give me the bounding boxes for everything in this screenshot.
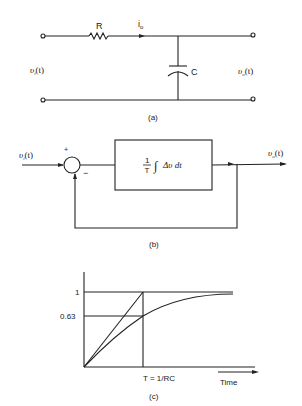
minus-sign: − bbox=[83, 168, 88, 178]
caption-b: (b) bbox=[149, 240, 159, 249]
input-voltage-label: υi(t) bbox=[30, 65, 44, 76]
response-curve bbox=[84, 294, 233, 367]
integral-sign: ∫ bbox=[153, 158, 159, 174]
feedback-arrow-icon bbox=[73, 173, 77, 179]
block-numerator: 1 bbox=[145, 156, 150, 165]
terminal-out-top bbox=[251, 33, 255, 37]
resistor-label: R bbox=[96, 21, 103, 31]
terminal-in-bottom bbox=[41, 98, 45, 102]
caption-a: (a) bbox=[148, 113, 158, 122]
time-arrow-icon bbox=[252, 370, 259, 374]
block-diagram bbox=[22, 140, 285, 228]
rc-circuit bbox=[41, 33, 255, 102]
block-denominator: T bbox=[145, 166, 150, 175]
t-marker-label: T = 1/RC bbox=[143, 374, 175, 383]
output-voltage-label: υo(t) bbox=[238, 66, 253, 77]
caption-c: (c) bbox=[149, 392, 159, 401]
block-input-label: υi(t) bbox=[19, 150, 33, 161]
summing-junction bbox=[64, 157, 80, 173]
x-axis-label: Time bbox=[220, 378, 238, 387]
capacitor-label: C bbox=[191, 67, 198, 77]
input-arrow-icon bbox=[58, 163, 64, 167]
block-output-label: υo(t) bbox=[268, 148, 283, 159]
current-label: io bbox=[138, 19, 144, 30]
step-response-chart bbox=[84, 272, 256, 372]
output-arrow-icon bbox=[280, 162, 287, 166]
terminal-out-bottom bbox=[251, 97, 255, 101]
plus-sign: + bbox=[64, 146, 68, 153]
y-tick-063: 0.63 bbox=[60, 312, 76, 321]
output-signal-line bbox=[212, 164, 285, 165]
block-expression: Δυ dt bbox=[162, 160, 182, 170]
y-tick-1: 1 bbox=[75, 288, 80, 297]
resistor-symbol bbox=[89, 33, 108, 39]
current-arrow-icon bbox=[139, 34, 145, 38]
block-output-arrow-icon bbox=[228, 162, 234, 166]
terminal-in-top bbox=[41, 34, 45, 38]
feedback-path bbox=[75, 164, 237, 228]
figure-canvas: R io C υi(t) υo(t) (a) υi(t) υo(t) + − 1… bbox=[0, 0, 302, 406]
tangent-line bbox=[84, 292, 143, 367]
